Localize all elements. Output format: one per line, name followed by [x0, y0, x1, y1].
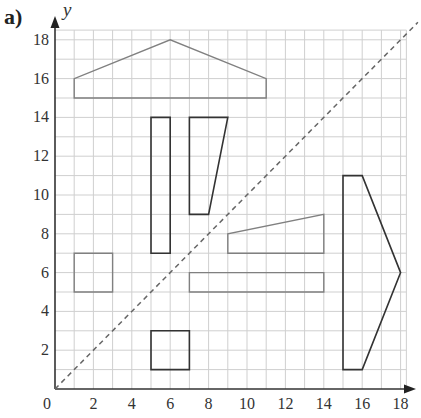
x-tick-label: 16	[354, 395, 370, 412]
mirror-line-y-equals-x	[55, 22, 418, 389]
y-tick-label: 14	[33, 108, 49, 125]
y-tick-label: 18	[33, 31, 49, 48]
x-tick-label: 4	[128, 395, 136, 412]
y-axis-arrow-icon	[51, 16, 60, 28]
coordinate-grid-figure: 24681012141618246810121416180y	[0, 0, 421, 418]
y-tick-label: 16	[33, 70, 49, 87]
x-tick-label: 6	[166, 395, 174, 412]
axes	[51, 16, 417, 394]
x-tick-label: 2	[89, 395, 97, 412]
x-tick-label: 14	[316, 395, 332, 412]
x-tick-label: 18	[393, 395, 409, 412]
x-axis-arrow-icon	[404, 385, 416, 394]
mirror-line	[55, 22, 418, 389]
y-tick-label: 10	[33, 186, 49, 203]
origin-label: 0	[43, 395, 51, 412]
x-tick-label: 12	[277, 395, 293, 412]
y-tick-label: 12	[33, 147, 49, 164]
y-tick-label: 4	[41, 302, 49, 319]
y-tick-label: 2	[41, 341, 49, 358]
y-axis-label: y	[61, 0, 72, 20]
tall-rectangle	[151, 117, 170, 253]
x-tick-label: 8	[205, 395, 213, 412]
y-tick-label: 8	[41, 225, 49, 242]
y-tick-label: 6	[41, 264, 49, 281]
long-rectangle	[189, 273, 323, 292]
x-tick-label: 10	[239, 395, 255, 412]
